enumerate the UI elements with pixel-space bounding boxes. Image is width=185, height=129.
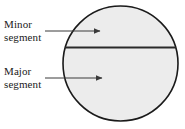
minor-segment-label-line1: Minor [4,18,41,31]
major-segment-label: Major segment [4,65,41,90]
circle-shape [63,6,178,121]
minor-segment-label-line2: segment [4,31,41,44]
major-segment-label-line1: Major [4,65,41,78]
minor-segment-label: Minor segment [4,18,41,43]
circle-segments-figure: Minor segment Major segment [0,0,185,129]
major-segment-label-line2: segment [4,78,41,91]
